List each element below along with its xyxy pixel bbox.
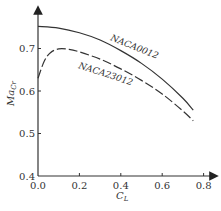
tick-labels: 0.00.20.40.60.80.40.50.60.7: [19, 43, 211, 191]
x-tick-label: 0.2: [71, 180, 87, 191]
x-tick-label: 0.0: [30, 180, 46, 191]
ticks: [38, 49, 204, 177]
x-axis-label: CL: [116, 190, 129, 203]
series-line-naca23012: [38, 49, 193, 121]
series-label-naca23012: NACA23012: [76, 60, 134, 87]
y-tick-label: 0.4: [19, 171, 35, 182]
y-tick-label: 0.5: [19, 128, 35, 139]
chart: 0.00.20.40.60.80.40.50.60.7 CL MaCr NACA…: [0, 0, 221, 211]
y-axis-label: MaCr: [5, 80, 18, 107]
y-tick-label: 0.6: [19, 86, 35, 97]
x-tick-label: 0.6: [154, 180, 170, 191]
series-label-naca0012: NACA0012: [108, 32, 160, 61]
x-tick-label: 0.8: [196, 180, 212, 191]
y-tick-label: 0.7: [19, 43, 35, 54]
